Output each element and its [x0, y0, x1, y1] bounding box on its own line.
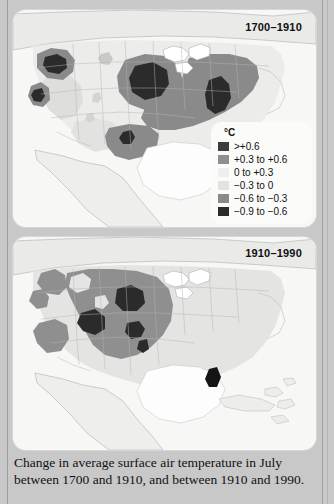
map-panel-1910-1990: 1910–1990	[13, 237, 316, 450]
panel-title-1700-1910: 1700–1910	[245, 21, 302, 33]
legend: °C >+0.6 +0.3 to +0.6 0 to +0.3 −0.3 to …	[211, 122, 312, 224]
legend-label: −0.9 to −0.6	[234, 205, 287, 218]
legend-label: >+0.6	[234, 140, 260, 153]
legend-swatch	[218, 181, 229, 190]
legend-item: +0.3 to +0.6	[218, 153, 306, 166]
legend-title: °C	[224, 127, 306, 138]
legend-swatch	[218, 207, 229, 216]
figure-caption: Change in average surface air temperatur…	[14, 455, 320, 488]
legend-item: 0 to +0.3	[218, 166, 306, 179]
map-panel-1700-1910: 1700–1910 °C >+0.6 +0.3 to +0.6 0 to +0.…	[13, 10, 316, 227]
legend-label: −0.3 to 0	[234, 179, 273, 192]
panel-title-1910-1990: 1910–1990	[245, 247, 302, 259]
map-canvas-1910-1990	[13, 237, 316, 450]
legend-label: +0.3 to +0.6	[234, 153, 287, 166]
legend-item: −0.3 to 0	[218, 179, 306, 192]
figure-plate: 1700–1910 °C >+0.6 +0.3 to +0.6 0 to +0.…	[0, 0, 334, 504]
legend-swatch	[218, 168, 229, 177]
legend-label: −0.6 to −0.3	[234, 192, 287, 205]
legend-item: −0.6 to −0.3	[218, 192, 306, 205]
legend-swatch	[218, 194, 229, 203]
legend-label: 0 to +0.3	[234, 166, 273, 179]
legend-swatch	[218, 142, 229, 151]
legend-item: −0.9 to −0.6	[218, 205, 306, 218]
legend-item: >+0.6	[218, 140, 306, 153]
right-rule	[327, 0, 328, 504]
legend-swatch	[218, 155, 229, 164]
